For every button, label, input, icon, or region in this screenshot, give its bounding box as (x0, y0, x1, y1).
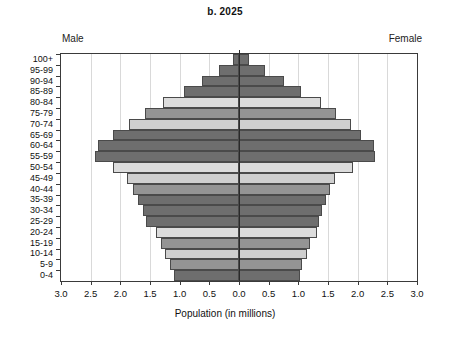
bar-female-50-54 (239, 162, 353, 173)
x-axis-tick (387, 281, 388, 285)
bar-female-60-64 (239, 140, 374, 151)
bar-female-25-29 (239, 216, 319, 227)
y-axis-label-55-59: 55-59 (30, 152, 53, 161)
bar-female-20-24 (239, 227, 317, 238)
x-axis-tick (61, 281, 62, 285)
bar-female-70-74 (239, 119, 351, 130)
y-axis-label-75-79: 75-79 (30, 109, 53, 118)
chart-root: b. 2025 Male Female 0-45-910-1415-1920-2… (0, 0, 450, 339)
x-axis-tick (358, 281, 359, 285)
y-axis-tick (56, 97, 61, 98)
x-axis-label-0.5-5: 0.5 (203, 288, 216, 299)
x-axis-tick (328, 281, 329, 285)
y-axis-label-30-34: 30-34 (30, 206, 53, 215)
x-axis-tick (120, 281, 121, 285)
bar-female-10-14 (239, 249, 307, 260)
bar-female-55-59 (239, 151, 375, 162)
x-axis-tick (209, 281, 210, 285)
bar-male-35-39 (138, 195, 239, 206)
x-axis-tick (417, 281, 418, 285)
y-axis-tick (56, 216, 61, 217)
y-axis-tick (56, 259, 61, 260)
bar-male-90-94 (202, 76, 239, 87)
y-axis-label-20-24: 20-24 (30, 228, 53, 237)
center-axis-line (239, 50, 241, 281)
y-axis-tick (56, 140, 61, 141)
y-axis-label-50-54: 50-54 (30, 163, 53, 172)
bar-male-0-4 (174, 270, 239, 281)
x-axis-tick (269, 281, 270, 285)
x-axis-tick (91, 281, 92, 285)
bar-female-0-4 (239, 270, 300, 281)
bar-male-45-49 (127, 173, 239, 184)
y-axis-label-90-94: 90-94 (30, 77, 53, 86)
y-axis-tick (56, 86, 61, 87)
x-axis-tick (180, 281, 181, 285)
plot-area: 0-45-910-1415-1920-2425-2930-3435-3940-4… (60, 53, 418, 282)
y-axis-label-40-44: 40-44 (30, 185, 53, 194)
female-side-label: Female (389, 33, 422, 44)
x-axis-title: Population (in millions) (0, 308, 450, 319)
y-axis-tick (56, 270, 61, 271)
y-axis-tick (56, 249, 61, 250)
bar-female-80-84 (239, 97, 321, 108)
bar-female-5-9 (239, 259, 302, 270)
x-axis-label-3.0-0: 3.0 (54, 288, 67, 299)
x-axis-tick (298, 281, 299, 285)
bar-female-90-94 (239, 76, 284, 87)
bar-male-65-69 (113, 130, 239, 141)
y-axis-tick (56, 119, 61, 120)
bar-male-55-59 (95, 151, 239, 162)
y-axis-tick (56, 173, 61, 174)
bar-male-75-79 (145, 108, 239, 119)
x-axis-label-0.0-6: 0.0 (232, 288, 245, 299)
y-axis-label-95-99: 95-99 (30, 66, 53, 75)
bar-male-60-64 (98, 140, 239, 151)
bar-male-10-14 (165, 249, 239, 260)
bar-female-45-49 (239, 173, 335, 184)
x-axis-tick (239, 281, 240, 285)
bar-male-15-19 (161, 238, 239, 249)
bar-male-80-84 (163, 97, 239, 108)
x-axis-label-2.0-10: 2.0 (351, 288, 364, 299)
bar-female-95-99 (239, 65, 265, 76)
bar-male-70-74 (129, 119, 239, 130)
bar-male-95-99 (219, 65, 239, 76)
y-axis-tick (56, 227, 61, 228)
y-axis-label-10-14: 10-14 (30, 249, 53, 258)
x-axis-tick (150, 281, 151, 285)
y-axis-tick (56, 108, 61, 109)
x-axis-label-2.5-11: 2.5 (381, 288, 394, 299)
x-axis-label-3.0-12: 3.0 (410, 288, 423, 299)
bar-female-75-79 (239, 108, 336, 119)
bar-male-85-89 (184, 86, 239, 97)
x-axis-label-2.0-2: 2.0 (114, 288, 127, 299)
x-axis-label-0.5-7: 0.5 (262, 288, 275, 299)
x-axis-label-2.5-1: 2.5 (84, 288, 97, 299)
bar-female-30-34 (239, 205, 322, 216)
bar-female-40-44 (239, 184, 330, 195)
male-side-label: Male (62, 33, 84, 44)
y-axis-label-100+: 100+ (33, 55, 53, 64)
y-axis-tick (56, 151, 61, 152)
y-axis-label-70-74: 70-74 (30, 120, 53, 129)
x-axis-label-1.5-9: 1.5 (321, 288, 334, 299)
y-axis-label-65-69: 65-69 (30, 131, 53, 140)
bar-female-85-89 (239, 86, 301, 97)
y-axis-label-80-84: 80-84 (30, 98, 53, 107)
chart-title: b. 2025 (0, 6, 450, 17)
y-axis-label-35-39: 35-39 (30, 195, 53, 204)
bar-male-20-24 (156, 227, 239, 238)
y-axis-tick (56, 130, 61, 131)
y-axis-tick (56, 162, 61, 163)
y-axis-label-85-89: 85-89 (30, 87, 53, 96)
bar-female-35-39 (239, 195, 326, 206)
bar-male-40-44 (133, 184, 239, 195)
y-axis-tick (56, 65, 61, 66)
bar-male-25-29 (146, 216, 239, 227)
y-axis-label-5-9: 5-9 (40, 260, 53, 269)
x-axis-label-1.0-8: 1.0 (292, 288, 305, 299)
y-axis-label-15-19: 15-19 (30, 239, 53, 248)
y-axis-label-25-29: 25-29 (30, 217, 53, 226)
y-axis-tick (56, 195, 61, 196)
